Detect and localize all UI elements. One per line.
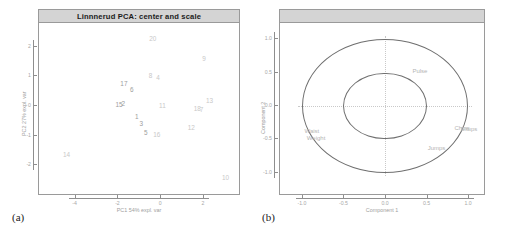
variable-label: Waist: [305, 128, 320, 134]
panel-a-x-tick: [75, 195, 76, 198]
panel-a-y-tick-label: -2: [21, 161, 31, 167]
scatter-point-label: 13: [206, 97, 213, 104]
scatter-point-label: 16: [153, 131, 160, 138]
panel-a-x-tick-label: 2: [202, 200, 205, 206]
panel-b-x-tick-label: -1.0: [297, 200, 306, 206]
panel-a-plot-frame: Linnnerud PCA: center and scale 20984176…: [38, 9, 240, 195]
inner-half-circle: [343, 73, 426, 140]
panel-b-x-tick: [468, 195, 469, 198]
panel-a-y-tick: [34, 75, 37, 76]
scatter-point-label: 7: [200, 106, 204, 113]
panel-b-y-tick: [275, 138, 278, 139]
panel-b-x-tick-label: -0.5: [339, 200, 348, 206]
scatter-point-label: 6: [130, 86, 134, 93]
panel-a-y-tick-label: 0: [21, 102, 31, 108]
scatter-point-label: 14: [63, 151, 70, 158]
scatter-point-label: 9: [202, 55, 206, 62]
variable-label: Jumps: [428, 145, 446, 151]
panel-a-x-tick: [203, 195, 204, 198]
panel-a-y-tick: [34, 105, 37, 106]
panel-a-x-tick: [117, 195, 118, 198]
panel-a-pca-scores: Linnnerud PCA: center and scale 20984176…: [0, 0, 252, 245]
panel-b-x-tick: [427, 195, 428, 198]
panel-a-x-tick-label: -2: [115, 200, 120, 206]
panel-b-y-tick-label: 0.5: [260, 69, 272, 75]
panel-b-y-tick-label: 1.0: [260, 35, 272, 41]
panel-a-title: Linnnerud PCA: center and scale: [77, 12, 201, 21]
scatter-point-label: 5: [144, 128, 148, 135]
panel-a-y-tick-label: 2: [21, 43, 31, 49]
panel-b-y-tick: [275, 72, 278, 73]
panel-b-correlation-circle: PulseChinsSitupsJumpsWaistWeight Compone…: [252, 0, 505, 245]
panel-b-y-tick: [275, 38, 278, 39]
panel-b-x-axis-title: Component 1: [366, 207, 398, 213]
panel-b-title-bar: [280, 10, 484, 23]
panel-b-plot-area: PulseChinsSitupsJumpsWaistWeight: [280, 23, 484, 194]
panel-a-y-tick: [34, 135, 37, 136]
panel-a-plot-area: 20984176131521118713125161410: [39, 23, 239, 194]
panel-a-x-tick: [160, 195, 161, 198]
panel-b-x-tick-label: 1.0: [464, 200, 471, 206]
scatter-point-label: 3: [140, 119, 144, 126]
panel-a-y-tick: [34, 46, 37, 47]
scatter-point-label: 1: [135, 113, 139, 120]
panel-b-x-tick: [385, 195, 386, 198]
panel-a-y-tick: [34, 164, 37, 165]
panel-a-x-tick-label: 0: [159, 200, 162, 206]
panel-b-x-tick: [343, 195, 344, 198]
variable-label: Situps: [461, 126, 478, 132]
panel-b-x-tick-label: 0.5: [423, 200, 430, 206]
panel-b-y-tick-label: -0.5: [260, 135, 272, 141]
panel-b-y-tick: [275, 172, 278, 173]
panel-b-x-axis-line: [296, 198, 474, 199]
scatter-point-label: 10: [222, 174, 229, 181]
scatter-point-label: 4: [156, 74, 160, 81]
panel-b-x-tick: [302, 195, 303, 198]
scatter-point-label: 12: [188, 123, 195, 130]
panel-b-y-tick-label: -1.0: [260, 169, 272, 175]
scatter-point-label: 17: [120, 79, 127, 86]
panel-a-x-axis-title: PC1 54% expl. var: [117, 207, 162, 213]
panel-b-y-tick: [275, 105, 278, 106]
panel-a-y-tick-label: -1: [21, 132, 31, 138]
panel-a-x-tick-label: -4: [72, 200, 77, 206]
panel-b-x-tick-label: 0.0: [381, 200, 388, 206]
scatter-point-label: 8: [149, 71, 153, 78]
panel-a-title-bar: Linnnerud PCA: center and scale: [39, 10, 239, 23]
scatter-point-label: 2: [121, 99, 125, 106]
scatter-point-label: 11: [159, 101, 166, 108]
panel-b-caption: (b): [262, 211, 275, 223]
scatter-point-label: 20: [149, 34, 156, 41]
panel-a-caption: (a): [12, 211, 24, 223]
panel-a-y-tick-label: 1: [21, 72, 31, 78]
variable-label: Pulse: [412, 68, 427, 74]
panel-b-plot-frame: PulseChinsSitupsJumpsWaistWeight: [279, 9, 485, 195]
panel-b-y-tick-label: 0.0: [260, 102, 272, 108]
panel-a-x-axis-line: [69, 198, 209, 199]
variable-label: Weight: [307, 135, 326, 141]
panel-a-y-axis-title: PC2 27% expl. var: [21, 91, 27, 136]
